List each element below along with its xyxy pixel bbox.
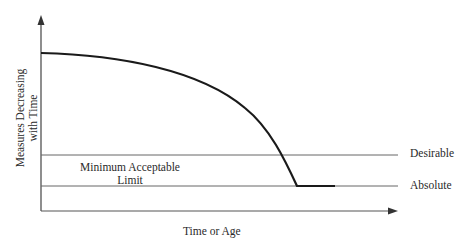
- y-axis-label: Measures Decreasing with Time: [14, 53, 40, 183]
- y-axis-label-line1: Measures Decreasing: [14, 53, 27, 183]
- band-label-line2: Limit: [70, 174, 190, 187]
- minimum-acceptable-limit-label: Minimum Acceptable Limit: [70, 161, 190, 187]
- band-label-line1: Minimum Acceptable: [70, 161, 190, 174]
- y-axis-label-line2: with Time: [27, 53, 40, 183]
- x-axis-arrow-icon: [388, 208, 398, 215]
- absolute-label: Absolute: [410, 179, 452, 192]
- desirable-label: Desirable: [410, 147, 454, 160]
- x-axis-label: Time or Age: [183, 225, 241, 238]
- y-axis-arrow-icon: [38, 15, 45, 25]
- chart-canvas: [0, 0, 467, 245]
